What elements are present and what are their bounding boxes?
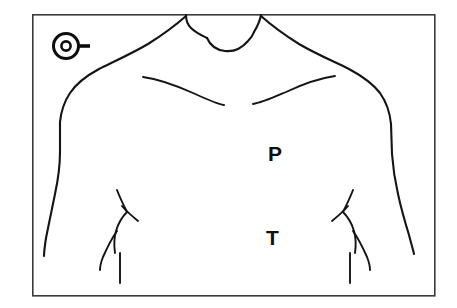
torso-diagram-svg xyxy=(0,0,457,308)
diagram-canvas: P T xyxy=(0,0,457,308)
site-label-t: T xyxy=(266,227,279,248)
site-label-p: P xyxy=(268,143,282,164)
diagram-frame xyxy=(33,15,435,296)
